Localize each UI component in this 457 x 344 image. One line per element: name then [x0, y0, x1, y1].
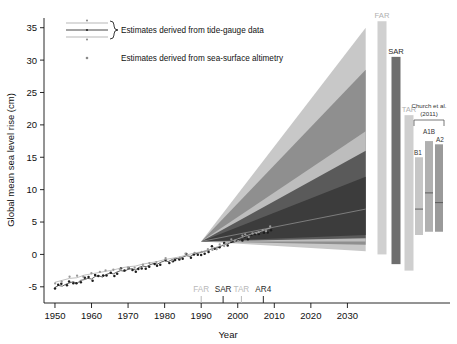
scenario-bar-a1b	[425, 141, 433, 232]
church-bracket	[414, 120, 444, 126]
legend: Estimates derived from tide-gauge data E…	[66, 20, 284, 63]
x-tick-label: 1950	[44, 310, 65, 321]
x-tick-label: 1970	[118, 310, 139, 321]
church-title-line2: (2011)	[420, 110, 437, 117]
y-tick-label: -5	[29, 281, 37, 292]
report-marker-far: FAR	[193, 285, 209, 294]
y-tick-label: 20	[26, 119, 37, 130]
x-tick-label: 2010	[264, 310, 285, 321]
report-marker-sar: SAR	[215, 285, 232, 294]
scenario-label-b1: B1	[414, 149, 422, 156]
x-tick-label: 2020	[300, 310, 321, 321]
projection-bars: FARSARTAR	[375, 11, 417, 270]
scenario-bar-b1	[415, 157, 423, 235]
report-markers: FARSARTARAR4	[193, 285, 272, 303]
scenario-label-a1b: A1B	[423, 128, 435, 135]
legend-label-altimetry: Estimates derived from sea-surface altim…	[121, 54, 284, 63]
projection-bar-far	[378, 21, 387, 254]
church-title-line1: Church et al.	[411, 102, 446, 109]
scenario-bar-a2	[435, 144, 443, 231]
y-tick-label: 35	[26, 22, 37, 33]
x-tick-label: 1980	[154, 310, 175, 321]
bar-label-sar: SAR	[388, 47, 404, 56]
church-group: Church et al.(2011)B1A1BA2	[411, 102, 446, 235]
y-tick-label: 0	[32, 249, 37, 260]
report-marker-tar: TAR	[234, 285, 250, 294]
projection-bar-sar	[392, 57, 401, 264]
x-tick-label: 1990	[191, 310, 212, 321]
y-axis-title: Global mean sea level rise (cm)	[5, 93, 16, 227]
x-axis-title: Year	[218, 329, 237, 340]
y-tick-label: 25	[26, 87, 37, 98]
x-tick-label: 2030	[337, 310, 358, 321]
x-tick-label: 1960	[81, 310, 102, 321]
scenario-label-a2: A2	[436, 136, 444, 143]
altimetry-dot-icon	[86, 57, 89, 60]
chart-canvas: -505101520253035195019601970198019902000…	[0, 0, 457, 344]
projection-bar-tar	[405, 115, 414, 270]
legend-item-tide-gauge: Estimates derived from tide-gauge data	[66, 20, 264, 41]
x-tick-label: 2000	[227, 310, 248, 321]
legend-item-altimetry: Estimates derived from sea-surface altim…	[86, 54, 284, 63]
y-tick-label: 5	[32, 216, 37, 227]
bar-label-far: FAR	[375, 11, 390, 20]
y-tick-label: 30	[26, 55, 37, 66]
y-tick-label: 10	[26, 184, 37, 195]
report-marker-ar4: AR4	[255, 285, 271, 294]
y-tick-label: 15	[26, 152, 37, 163]
legend-label-tide-gauge: Estimates derived from tide-gauge data	[121, 26, 264, 35]
sea-level-rise-chart: -505101520253035195019601970198019902000…	[0, 0, 457, 344]
